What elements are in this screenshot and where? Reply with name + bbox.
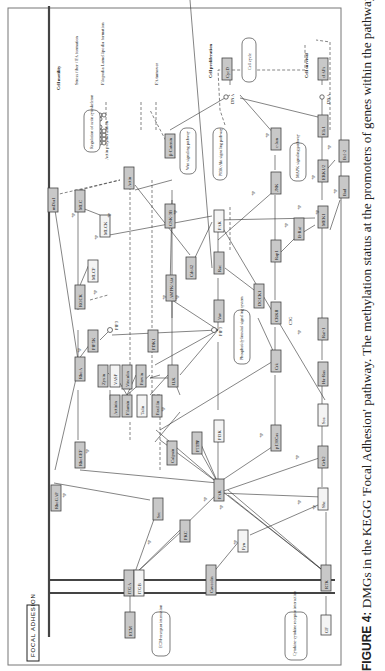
phosphorylation-marker: +p [264,132,269,138]
phosphorylation-marker: +p [93,234,98,240]
pip3-label: PIP3 [218,326,223,336]
node-bad: Bad [339,176,349,198]
node-calpain: Calpain [167,441,177,465]
node-rock: ROCK [75,285,85,309]
node-label: mDia1 [51,197,56,210]
node-mek1: MEK1 [318,206,328,228]
node-label: AMPK/Akt [169,277,174,299]
node-label: MLCK [103,221,108,235]
node-cdc42: Cdc42 [186,257,196,279]
phosphorylation-marker: +p [84,448,89,454]
node-label: Src [156,512,161,518]
node-label: β-Catenin [168,137,173,156]
caption-label: FIGURE 4: [360,612,374,671]
phosphorylation-marker: +p [76,347,81,353]
node-label: CRKII [274,309,279,322]
node-pak: PAK [214,210,224,232]
node-rtk: RTK [321,565,331,591]
node-pkc: PKC [180,520,190,542]
node-elk1: Elk1 [318,115,328,137]
node-label: Bad [342,188,347,196]
phosphorylation-marker: +p [283,222,288,228]
node-label: PI3K [217,430,222,440]
phosphorylation-marker: +p [202,496,207,502]
node-label: Ha-Ras [321,370,326,384]
svg-text:Phosphatidylinositol signaling: Phosphatidylinositol signaling system [239,296,244,360]
pill-wnt: Wnt signaling pathway [180,128,196,174]
node-label: PDK1 [151,338,156,350]
pathway-diagram: FOCAL ADHESION [0,0,385,671]
node-itga: ITGA [124,570,134,596]
node-label: JNK [274,183,279,192]
dna-node-1 [224,95,228,99]
node-label: Elk1 [321,126,326,135]
pill-ecm-receptor: ECM-receptor interaction [152,604,170,656]
c3g-label: C3G [288,316,293,325]
node-label: Talin [140,405,145,415]
phosphorylation-marker: +p [258,432,263,438]
node-label: Vav [217,312,222,320]
node-fyn: Fyn [238,530,248,552]
node-gf: GF [321,615,331,635]
cell-proliferation-label: Cell proliferation [208,44,213,78]
phosphorylation-marker: +p [296,204,301,210]
node-vasp: VASP [110,365,120,387]
svg-text:Cell cycle: Cell cycle [247,53,252,70]
actin-regulation-pill: Regulation of actin cytoskeleton [84,94,100,152]
pill-pi3k-akt: PI3K-Akt signaling pathway [213,127,227,180]
node-label: Rap1 [274,250,279,260]
pill-mapk: MAPK signaling pathway [290,133,306,181]
cell-survival-label: Cell survival [304,52,309,78]
node-bcl2: Bcl-2 [339,140,349,162]
node-parvin: Parvin [136,365,146,387]
node-erk12: ERK1/2 [318,160,328,182]
node-cjun: c-Jun [271,128,281,150]
node-label: Bcl-2 [342,149,347,160]
dna-label-2: DNA [326,93,331,104]
node-label: Grb2 [321,456,326,466]
node-label: GF [324,627,329,633]
node-label: Caveolin [209,576,214,593]
phosphorylation-marker: +p [146,539,151,545]
node-zyxin: Zyxin [98,365,108,387]
node-talin: Talin [137,395,147,417]
node-bcatenin: β-Catenin [165,134,175,158]
node-crkii: CRKII [271,302,281,324]
phosphorylation-marker: +p [294,454,299,460]
node-rap1: Rap1 [271,240,281,262]
node-mlcp: MLCP [88,260,98,282]
cell-motility-label: Cell motility [56,65,61,90]
node-jnk: JNK [271,172,281,194]
phosphorylation-marker: +p [106,212,111,218]
node-mlc: MLC [75,190,85,212]
node-grb2: Grb2 [318,446,328,468]
node-rhoa: RhoA [75,357,85,381]
dashed-edges [55,40,330,470]
node-label: B-Raf [297,226,302,238]
node-pi3k: PI3K [214,420,224,442]
pip3-label-2: PIP3 [114,320,119,330]
phosphorylation-marker: +p [160,406,165,412]
node-label: ERK1/2 [321,164,326,180]
node-crk: Crk [271,350,281,372]
node-rhogap: RhoGAP [51,485,61,511]
node-label: Shc [321,501,326,508]
node-label: Cdc42 [189,264,194,277]
node-ilk: ILK [168,365,178,387]
node-rac: Rac [214,252,224,274]
node-label: Paxillin [155,400,160,415]
node-sos: Sos [318,404,328,426]
node-label: Crk [274,362,279,370]
figure-caption: FIGURE 4: DMGs in the KEGG 'Focal Adhesi… [355,0,379,671]
node-label: Sos [321,417,326,424]
phosphorylation-marker: +p [70,212,75,218]
svg-text:ECM-receptor interaction: ECM-receptor interaction [158,604,163,648]
pill-cell-cycle: Cell cycle [242,38,256,82]
pip3-node [212,328,217,333]
node-label: Fyn [241,542,246,550]
filopodia-label: Filopodia Lamellipodia formation [100,22,105,85]
node-dock1: DOCK1 [254,284,264,308]
phosphorylation-marker: +p [296,499,301,505]
node-label: p130Cas [274,433,279,449]
node-braf: B-Raf [294,218,304,240]
